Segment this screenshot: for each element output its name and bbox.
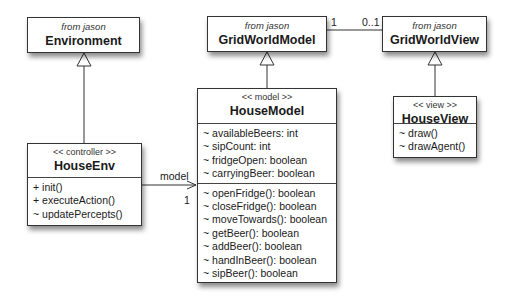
method: ~ draw(): [399, 127, 476, 140]
class-gridworldmodel[interactable]: from jason GridWorldModel: [207, 16, 327, 52]
method: + init(): [33, 181, 141, 194]
class-name: HouseView: [394, 111, 476, 127]
class-houseenv[interactable]: << controller >> HouseEnv + init() + exe…: [27, 143, 142, 226]
attribute: ~ fridgeOpen: boolean: [203, 154, 336, 167]
attribute: ~ availableBeers: int: [203, 127, 336, 140]
method: ~ addBeer(): boolean: [203, 240, 336, 253]
hollow-triangle-icon: [260, 52, 274, 65]
class-name: HouseEnv: [28, 158, 141, 174]
stereotype-label: << view >>: [394, 100, 476, 111]
methods-section: ~ openFridge(): boolean ~ closeFridge():…: [198, 183, 336, 283]
attribute: ~ carryingBeer: boolean: [203, 167, 336, 180]
package-label: from jason: [383, 20, 486, 32]
class-houseview[interactable]: << view >> HouseView ~ draw() ~ drawAgen…: [393, 96, 477, 158]
class-name: HouseModel: [198, 103, 336, 119]
method: ~ drawAgent(): [399, 140, 476, 153]
package-label: from jason: [28, 21, 139, 33]
role-label: model: [160, 170, 189, 182]
class-name: Environment: [28, 33, 139, 49]
method: + executeAction(): [33, 194, 141, 207]
method: ~ getBeer(): boolean: [203, 227, 336, 240]
class-name: GridWorldModel: [208, 32, 326, 48]
method: ~ moveTowards(): boolean: [203, 213, 336, 226]
multiplicity-source: 1: [331, 16, 337, 28]
attribute: ~ sipCount: int: [203, 140, 336, 153]
attributes-section: ~ availableBeers: int ~ sipCount: int ~ …: [198, 123, 336, 183]
multiplicity-target: 0..1: [362, 16, 380, 28]
stereotype-label: << controller >>: [28, 147, 141, 158]
hollow-triangle-icon: [77, 53, 91, 66]
method: ~ handInBeer(): boolean: [203, 254, 336, 267]
method: ~ updatePercepts(): [33, 208, 141, 221]
stereotype-label: << model >>: [198, 92, 336, 103]
multiplicity-label: 1: [184, 194, 190, 206]
package-label: from jason: [208, 20, 326, 32]
method: ~ closeFridge(): boolean: [203, 200, 336, 213]
method: ~ sipBeer(): boolean: [203, 267, 336, 280]
class-environment[interactable]: from jason Environment: [27, 17, 140, 53]
method: ~ openFridge(): boolean: [203, 187, 336, 200]
class-gridworldview[interactable]: from jason GridWorldView: [382, 16, 487, 52]
hollow-triangle-icon: [428, 52, 442, 65]
class-housemodel[interactable]: << model >> HouseModel ~ availableBeers:…: [197, 88, 337, 283]
methods-section: + init() + executeAction() ~ updatePerce…: [28, 177, 141, 223]
class-name: GridWorldView: [383, 32, 486, 48]
methods-section: ~ draw() ~ drawAgent(): [394, 123, 476, 156]
